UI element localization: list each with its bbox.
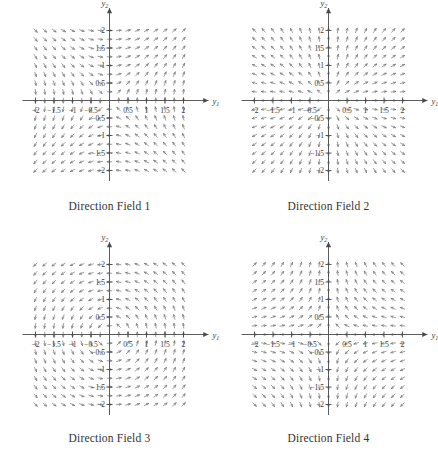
y-tick-label: 1.5 — [315, 44, 325, 53]
x-tick-label: −1 — [287, 106, 295, 115]
y-tick-label: 0.5 — [315, 79, 325, 88]
y-tick-label: 2 — [101, 260, 105, 269]
plot-area-1: −2−1.5−1−0.50.511.5221.510.5−0.5−1−1.5−2… — [0, 0, 219, 205]
axes — [23, 8, 209, 181]
x-tick-label: 2 — [182, 106, 186, 115]
panel-caption-3: Direction Field 3 — [0, 432, 219, 444]
x-tick-label: 1.5 — [160, 106, 170, 115]
y-tick-label: −0.5 — [310, 348, 324, 357]
y-axis-label: y2 — [320, 234, 328, 243]
x-axis-label: y1 — [430, 96, 438, 107]
y-tick-label: −0.5 — [310, 114, 324, 123]
plot-area-4: −2−1.5−1−0.50.511.5221.510.5−0.5−1−1.5−2… — [219, 234, 438, 439]
y-axis-label: y2 — [101, 0, 109, 9]
x-tick-label: −1 — [68, 340, 76, 349]
x-tick-label: −2 — [31, 106, 39, 115]
x-tick-label: 1.5 — [379, 340, 389, 349]
x-tick-label: −2 — [250, 340, 258, 349]
y-tick-label: −2 — [97, 400, 105, 409]
y-tick-label: −1 — [316, 131, 324, 140]
y-tick-label: −0.5 — [91, 348, 105, 357]
panel-caption-4: Direction Field 4 — [219, 432, 438, 444]
x-tick-label: 2 — [401, 106, 405, 115]
x-tick-label: −1.5 — [47, 340, 61, 349]
y-tick-label: 1.5 — [96, 44, 106, 53]
y-tick-label: −1 — [316, 365, 324, 374]
direction-field-figure: −2−1.5−1−0.50.511.5221.510.5−0.5−1−1.5−2… — [0, 0, 438, 467]
x-tick-label: −2 — [31, 340, 39, 349]
axes — [242, 242, 428, 415]
x-tick-label: 2 — [182, 340, 186, 349]
axes — [242, 8, 428, 181]
panel-direction-field-1: −2−1.5−1−0.50.511.5221.510.5−0.5−1−1.5−2… — [0, 0, 219, 234]
x-tick-label: −1.5 — [47, 106, 61, 115]
y-tick-label: 1 — [320, 295, 324, 304]
y-tick-label: −2 — [316, 400, 324, 409]
y-axis-label: y2 — [320, 0, 328, 9]
y-tick-label: 2 — [320, 26, 324, 35]
plot-area-2: −2−1.5−1−0.50.511.5221.510.5−0.5−1−1.5−2… — [219, 0, 438, 205]
y-tick-label: 1.5 — [315, 278, 325, 287]
y-tick-label: 1 — [101, 295, 105, 304]
x-axis-label: y1 — [211, 96, 219, 107]
y-tick-label: 2 — [101, 26, 105, 35]
x-tick-label: 1 — [364, 340, 368, 349]
x-tick-label: −1 — [287, 340, 295, 349]
x-tick-label: −1 — [68, 106, 76, 115]
y-tick-label: 0.5 — [96, 79, 106, 88]
x-axis-label: y1 — [211, 330, 219, 341]
x-tick-label: 1 — [364, 106, 368, 115]
y-tick-label: 1.5 — [96, 278, 106, 287]
panel-direction-field-4: −2−1.5−1−0.50.511.5221.510.5−0.5−1−1.5−2… — [219, 234, 438, 467]
direction-field-plot-1: −2−1.5−1−0.50.511.5221.510.5−0.5−1−1.5−2… — [0, 0, 219, 205]
y-tick-label: −1.5 — [91, 149, 105, 158]
y-tick-label: 0.5 — [96, 313, 106, 322]
panel-direction-field-3: −2−1.5−1−0.50.511.5221.510.5−0.5−1−1.5−2… — [0, 234, 219, 467]
x-tick-label: −1.5 — [266, 106, 280, 115]
x-tick-label: 1 — [145, 340, 149, 349]
panel-direction-field-2: −2−1.5−1−0.50.511.5221.510.5−0.5−1−1.5−2… — [219, 0, 438, 234]
plot-area-3: −2−1.5−1−0.50.511.5221.510.5−0.5−1−1.5−2… — [0, 234, 219, 439]
direction-field-plot-2: −2−1.5−1−0.50.511.5221.510.5−0.5−1−1.5−2… — [219, 0, 438, 205]
panel-caption-1: Direction Field 1 — [0, 200, 219, 212]
y-tick-label: −1.5 — [310, 383, 324, 392]
x-tick-label: 0.5 — [342, 340, 352, 349]
axes — [23, 242, 209, 415]
x-tick-label: 0.5 — [123, 340, 133, 349]
x-tick-label: −2 — [250, 106, 258, 115]
direction-field-plot-4: −2−1.5−1−0.50.511.5221.510.5−0.5−1−1.5−2… — [219, 234, 438, 439]
direction-field-plot-3: −2−1.5−1−0.50.511.5221.510.5−0.5−1−1.5−2… — [0, 234, 219, 439]
x-axis-label: y1 — [430, 330, 438, 341]
x-tick-label: 1.5 — [160, 340, 170, 349]
y-tick-label: 2 — [320, 260, 324, 269]
y-tick-label: −2 — [97, 166, 105, 175]
y-tick-label: −0.5 — [91, 114, 105, 123]
x-tick-label: 1 — [145, 106, 149, 115]
x-tick-label: 1.5 — [379, 106, 389, 115]
x-tick-label: 2 — [401, 340, 405, 349]
y-tick-label: −1.5 — [91, 383, 105, 392]
x-tick-label: −1.5 — [266, 340, 280, 349]
y-tick-label: −1 — [97, 365, 105, 374]
y-tick-label: 1 — [320, 61, 324, 70]
y-tick-label: −1.5 — [310, 149, 324, 158]
panel-caption-2: Direction Field 2 — [219, 200, 438, 212]
y-tick-label: −2 — [316, 166, 324, 175]
y-axis-label: y2 — [101, 234, 109, 243]
y-tick-label: 1 — [101, 61, 105, 70]
x-tick-label: 0.5 — [123, 106, 133, 115]
y-tick-label: −1 — [97, 131, 105, 140]
y-tick-label: 0.5 — [315, 313, 325, 322]
x-tick-label: 0.5 — [342, 106, 352, 115]
